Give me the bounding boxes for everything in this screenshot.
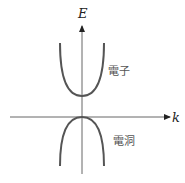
band-diagram: E k 電子 電洞 [0, 0, 185, 183]
hole-band-label: 電洞 [113, 135, 135, 148]
electron-band-label: 電子 [108, 65, 130, 78]
k-axis-label: k [172, 110, 180, 125]
e-axis-label: E [77, 6, 88, 21]
